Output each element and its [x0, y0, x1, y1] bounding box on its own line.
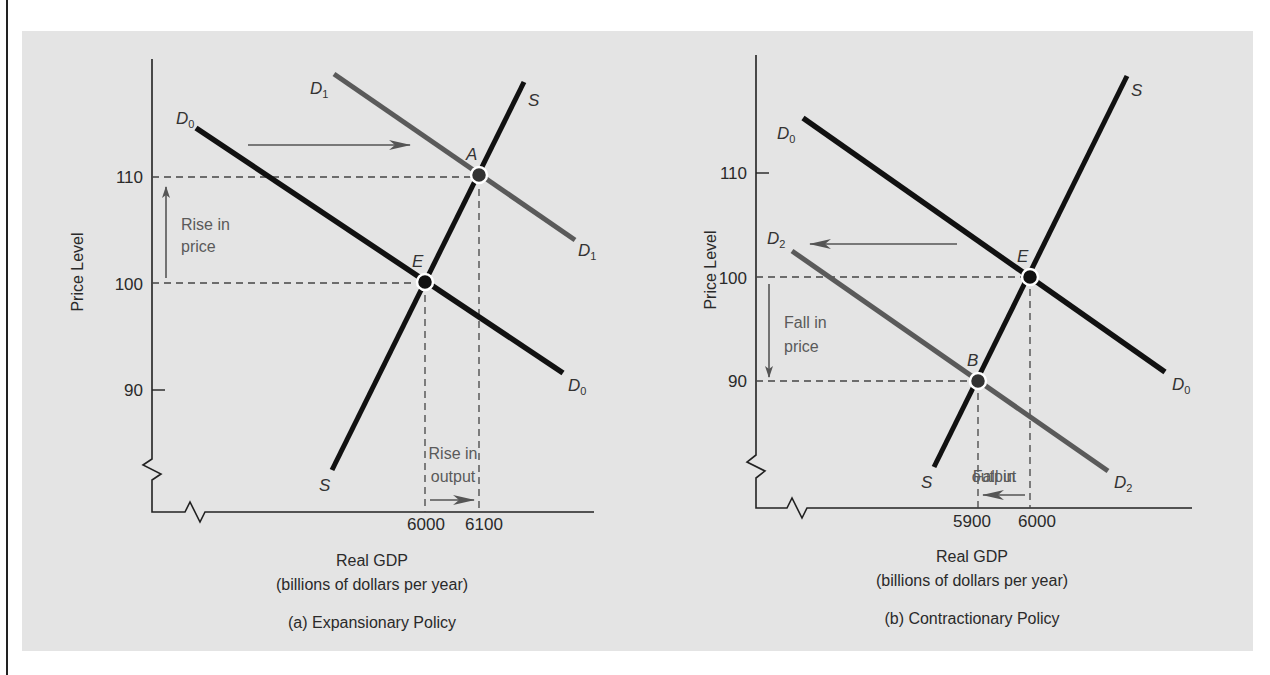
rise-in-output-label-2: output: [431, 468, 476, 485]
label-d0-top: D0: [176, 109, 194, 130]
rise-in-price-label: Rise in: [181, 216, 230, 233]
y-tick-label-90: 90: [728, 372, 747, 391]
x-tick-label-6100: 6100: [465, 515, 503, 534]
x-tick-label-5900: 5900: [953, 512, 991, 531]
figure-charts: 110 100 90 6000 6100 Price Level Real GD…: [0, 0, 1270, 675]
chart-expansionary-policy: 110 100 90 6000 6100 Price Level Real GD…: [69, 59, 596, 631]
label-point-e: E: [412, 252, 424, 271]
equilibrium-point-e: [1022, 269, 1038, 285]
rise-in-output-label: Rise in: [429, 445, 478, 462]
chart-contractionary-policy: 110 100 90 5900 6000 Price Level Real GD…: [702, 55, 1192, 627]
x-axis-title: Real GDP: [936, 548, 1008, 565]
y-axis: [143, 59, 594, 522]
chart-caption: (b) Contractionary Policy: [884, 610, 1059, 627]
x-tick-label-6000: 6000: [1018, 512, 1056, 531]
y-tick-label-90: 90: [124, 381, 143, 400]
demand-curve-d0: [196, 128, 563, 373]
equilibrium-point-a: [471, 167, 487, 183]
y-tick-label-110: 110: [720, 164, 747, 183]
x-axis-subtitle: (billions of dollars per year): [276, 576, 468, 593]
chart-caption: (a) Expansionary Policy: [288, 614, 456, 631]
x-axis-subtitle: (billions of dollars per year): [876, 572, 1068, 589]
demand-curve-d0: [803, 118, 1165, 372]
label-d0-top: D0: [777, 124, 795, 145]
label-d1-bottom: D1: [578, 241, 596, 262]
rise-in-price-label-2: price: [181, 238, 216, 255]
label-s-bottom: S: [319, 476, 331, 495]
label-point-b: B: [967, 351, 978, 370]
y-tick-label-100: 100: [115, 275, 143, 294]
label-d0-bottom: D0: [1172, 375, 1190, 396]
equilibrium-point-e: [417, 274, 433, 290]
y-axis-title: Price Level: [702, 230, 719, 309]
fall-in-output-label-2: output: [972, 468, 1017, 485]
x-axis-title: Real GDP: [336, 552, 408, 569]
label-s-top: S: [1131, 81, 1143, 100]
label-d1-top: D1: [310, 79, 328, 100]
label-point-e: E: [1017, 247, 1029, 266]
label-s-bottom: S: [921, 473, 933, 492]
label-d2-top: D2: [767, 229, 785, 250]
y-tick-label-110: 110: [116, 168, 143, 187]
label-d0-bottom: D0: [568, 376, 586, 397]
y-axis-title: Price Level: [69, 232, 86, 311]
label-d2-bottom: D2: [1114, 473, 1132, 494]
fall-in-price-label: Fall in: [784, 314, 827, 331]
y-tick-label-100: 100: [719, 269, 747, 288]
label-point-a: A: [465, 145, 477, 164]
equilibrium-point-b: [970, 373, 986, 389]
fall-in-price-label-2: price: [784, 338, 819, 355]
label-s-top: S: [528, 91, 540, 110]
x-tick-label-6000: 6000: [407, 515, 445, 534]
